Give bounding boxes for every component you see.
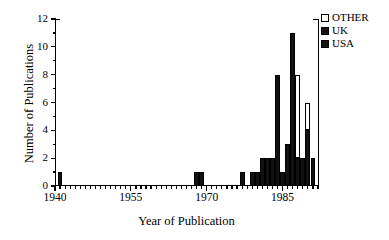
bar-segment — [199, 172, 204, 186]
x-axis-minor-tick — [242, 186, 243, 189]
x-axis-minor-tick — [312, 186, 313, 189]
legend-item[interactable]: OTHER — [321, 12, 369, 24]
x-axis-minor-tick — [287, 186, 288, 189]
publications-histogram-figure: Number of Publications 024681012 1940195… — [0, 0, 389, 240]
bar-segment — [275, 75, 280, 186]
legend-item[interactable]: USA — [321, 38, 369, 50]
legend-swatch-icon — [321, 40, 329, 48]
x-axis-minor-tick — [272, 186, 273, 189]
x-axis-minor-tick — [262, 186, 263, 189]
y-axis-tick-label: 10 — [8, 41, 48, 52]
x-axis-minor-tick — [221, 186, 222, 189]
x-axis-minor-tick — [267, 186, 268, 189]
x-axis-minor-tick — [277, 186, 278, 189]
legend-swatch-icon — [321, 27, 329, 35]
x-axis-minor-tick — [191, 186, 192, 189]
y-axis-tick-label: 8 — [8, 69, 48, 80]
bar-segment — [295, 75, 300, 159]
bar-segment — [265, 158, 270, 186]
x-axis-minor-tick — [100, 186, 101, 189]
x-axis-minor-tick — [105, 186, 106, 189]
x-axis-minor-tick — [307, 186, 308, 189]
x-axis-tick-label: 1940 — [32, 191, 78, 203]
bar-segment — [280, 172, 285, 186]
legend-item-label: UK — [332, 25, 348, 37]
bar-segment — [295, 158, 300, 186]
x-axis-minor-tick — [176, 186, 177, 189]
x-axis-minor-tick — [166, 186, 167, 189]
x-axis-minor-tick — [59, 186, 60, 189]
bar-segment — [255, 172, 260, 186]
x-axis-minor-tick — [257, 186, 258, 189]
x-axis-minor-tick — [171, 186, 172, 189]
plot-frame-top-right-stub — [313, 19, 319, 20]
x-axis-minor-tick — [226, 186, 227, 189]
x-axis-minor-tick — [297, 186, 298, 189]
bar-segment — [305, 103, 310, 131]
plot-frame-top-left-stub — [55, 19, 60, 20]
x-axis-minor-tick — [186, 186, 187, 189]
x-axis-minor-tick — [161, 186, 162, 189]
x-axis-tick-label: 1970 — [184, 191, 230, 203]
y-axis-tick-label: 2 — [8, 152, 48, 163]
bar-segment — [58, 172, 63, 186]
x-axis-minor-tick — [150, 186, 151, 189]
bar-segment — [305, 130, 310, 186]
x-axis-minor-tick — [85, 186, 86, 189]
x-axis-title: Year of Publication — [55, 214, 318, 229]
bar-segment — [194, 172, 199, 186]
x-axis-minor-tick — [65, 186, 66, 189]
x-axis-minor-tick — [110, 186, 111, 189]
x-axis-minor-tick — [145, 186, 146, 189]
legend-item-label: USA — [332, 38, 354, 50]
x-axis-minor-tick — [216, 186, 217, 189]
x-axis-minor-tick — [70, 186, 71, 189]
y-axis-tick-label: 0 — [8, 180, 48, 191]
chart-legend: OTHERUKUSA — [321, 12, 369, 51]
x-axis-minor-tick — [252, 186, 253, 189]
x-axis-tick-label: 1985 — [260, 191, 306, 203]
y-axis-tick-label: 12 — [8, 13, 48, 24]
x-axis-minor-tick — [156, 186, 157, 189]
bar-segment — [260, 158, 265, 186]
x-axis-minor-tick — [181, 186, 182, 189]
x-axis-minor-tick — [302, 186, 303, 189]
bar-segment — [240, 172, 245, 186]
x-axis-minor-tick — [90, 186, 91, 189]
plot-frame-right-edge — [318, 19, 319, 186]
legend-swatch-icon — [321, 14, 329, 22]
legend-item[interactable]: UK — [321, 25, 369, 37]
x-axis-minor-tick — [292, 186, 293, 189]
x-axis-minor-tick — [125, 186, 126, 189]
x-axis-minor-tick — [317, 186, 318, 189]
x-axis-minor-tick — [247, 186, 248, 189]
x-axis-minor-tick — [120, 186, 121, 189]
x-axis-minor-tick — [140, 186, 141, 189]
x-axis-tick-label: 1955 — [108, 191, 154, 203]
x-axis-minor-tick — [231, 186, 232, 189]
x-axis-minor-tick — [80, 186, 81, 189]
x-axis-minor-tick — [95, 186, 96, 189]
bar-segment — [311, 158, 316, 186]
x-axis-minor-tick — [236, 186, 237, 189]
bar-segment — [290, 33, 295, 186]
x-axis-minor-tick — [115, 186, 116, 189]
y-axis-tick-label: 4 — [8, 124, 48, 135]
legend-item-label: OTHER — [332, 12, 369, 24]
x-axis-minor-tick — [211, 186, 212, 189]
y-axis-tick-label: 6 — [8, 97, 48, 108]
x-axis-minor-tick — [196, 186, 197, 189]
x-axis-minor-tick — [135, 186, 136, 189]
x-axis-minor-tick — [201, 186, 202, 189]
x-axis-minor-tick — [75, 186, 76, 189]
